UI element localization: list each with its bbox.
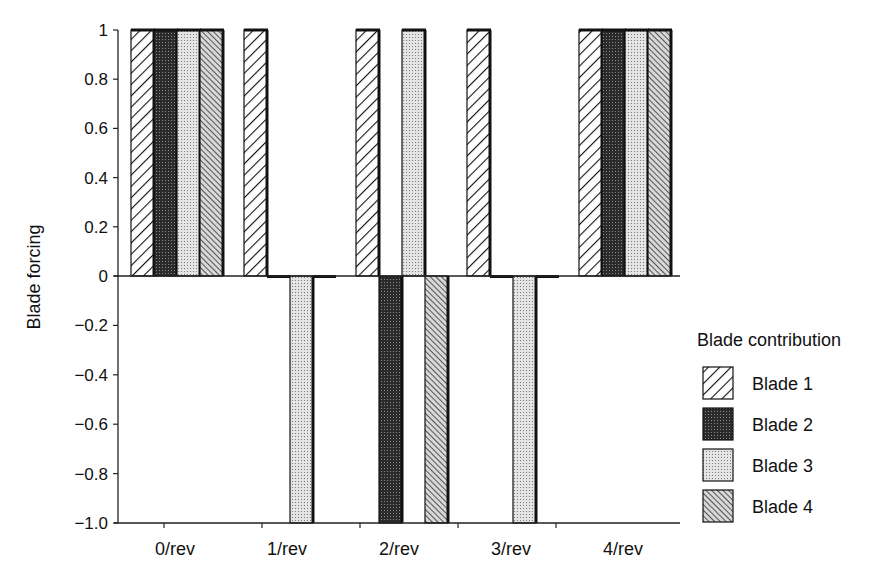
x-tick-label: 4/rev <box>603 539 643 559</box>
y-tick-label: 0.8 <box>84 70 108 89</box>
legend-title: Blade contribution <box>697 330 841 350</box>
y-tick-label: 1 <box>99 21 108 40</box>
bar <box>402 30 425 276</box>
y-tick-label: −0.2 <box>74 316 108 335</box>
y-tick-label: 0.4 <box>84 169 108 188</box>
bar <box>379 276 402 523</box>
bar <box>579 30 602 276</box>
bar <box>200 30 223 276</box>
y-axis-label: Blade forcing <box>24 224 44 329</box>
legend-label-4: Blade 4 <box>752 497 813 517</box>
bar <box>602 30 625 276</box>
y-tick-label: 0.2 <box>84 218 108 237</box>
y-tick-label: 0 <box>99 267 108 286</box>
bar <box>625 30 648 276</box>
legend-label-1: Blade 1 <box>752 374 813 394</box>
legend-swatch-3 <box>703 449 733 481</box>
x-tick-label: 0/rev <box>155 539 195 559</box>
bar <box>131 30 154 276</box>
legend-swatch-2 <box>703 408 733 440</box>
x-tick-label: 3/rev <box>491 539 531 559</box>
legend-label-2: Blade 2 <box>752 415 813 435</box>
bar <box>290 276 313 523</box>
y-tick-label: −1.0 <box>74 514 108 533</box>
bar <box>177 30 200 276</box>
bar <box>467 30 490 276</box>
bar <box>425 276 448 523</box>
legend-swatch-1 <box>703 367 733 399</box>
legend-label-3: Blade 3 <box>752 456 813 476</box>
y-tick-label: −0.4 <box>74 366 108 385</box>
legend-swatch-4 <box>703 490 733 522</box>
bar <box>154 30 177 276</box>
y-tick-label: 0.6 <box>84 119 108 138</box>
bar <box>356 30 379 276</box>
x-tick-label: 1/rev <box>267 539 307 559</box>
bar <box>513 276 536 523</box>
y-tick-label: −0.8 <box>74 465 108 484</box>
legend: Blade contributionBlade 1Blade 2Blade 3B… <box>697 330 841 522</box>
bar <box>648 30 671 276</box>
x-tick-label: 2/rev <box>379 539 419 559</box>
y-tick-label: −0.6 <box>74 415 108 434</box>
bar-chart: 10.80.60.40.20−0.2−0.4−0.6−0.8−1.00/rev1… <box>0 0 881 576</box>
bar <box>244 30 267 276</box>
